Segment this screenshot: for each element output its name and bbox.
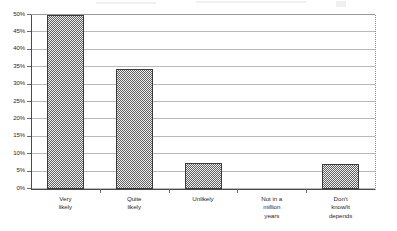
y-axis-tick-label: 30% bbox=[0, 80, 25, 87]
x-axis-label-line: Quite bbox=[100, 195, 169, 203]
y-axis-tick-label: 25% bbox=[0, 98, 25, 105]
x-axis-tick bbox=[237, 189, 238, 193]
scan-artifact bbox=[96, 2, 156, 4]
x-axis-label-line: Not in a bbox=[237, 195, 306, 203]
x-axis-label-line: know/it bbox=[306, 203, 375, 211]
bar bbox=[116, 69, 153, 189]
y-axis-tick-label: 10% bbox=[0, 150, 25, 157]
y-axis-tick-label: 0% bbox=[0, 185, 25, 192]
bar bbox=[322, 164, 359, 189]
y-axis-tick-label: 50% bbox=[0, 11, 25, 18]
y-axis-tick-label: 15% bbox=[0, 132, 25, 139]
x-axis-label-line: years bbox=[237, 212, 306, 220]
y-axis-tick-label: 5% bbox=[0, 167, 25, 174]
x-axis-label-line: Unlikely bbox=[169, 195, 238, 203]
x-axis-label-line: Don't bbox=[306, 195, 375, 203]
y-axis-tick-label: 45% bbox=[0, 28, 25, 35]
x-axis-label-line: Very bbox=[31, 195, 100, 203]
y-axis-tick-label: 20% bbox=[0, 115, 25, 122]
scan-artifact bbox=[336, 1, 346, 7]
x-axis-label-line: depends bbox=[306, 212, 375, 220]
x-axis-tick bbox=[100, 189, 101, 193]
x-axis-line bbox=[31, 189, 376, 190]
bar bbox=[47, 15, 84, 189]
scan-artifact bbox=[196, 1, 306, 3]
y-axis-line bbox=[31, 15, 32, 189]
x-axis-category-label: Quitelikely bbox=[100, 195, 169, 212]
x-axis-label-line: likely bbox=[100, 203, 169, 211]
y-axis-tick-label: 40% bbox=[0, 45, 25, 52]
x-axis-tick bbox=[169, 189, 170, 193]
x-axis-label-line: million bbox=[237, 203, 306, 211]
bar-chart: 0%5%10%15%20%25%30%35%40%45%50% Verylike… bbox=[0, 0, 397, 231]
x-axis-category-label: Don'tknow/itdepends bbox=[306, 195, 375, 220]
x-axis-label-line: likely bbox=[31, 203, 100, 211]
x-axis-tick bbox=[306, 189, 307, 193]
bar bbox=[185, 163, 222, 189]
plot-right-border bbox=[375, 15, 376, 190]
y-axis-tick-label: 35% bbox=[0, 63, 25, 70]
x-axis-category-label: Not in amillionyears bbox=[237, 195, 306, 220]
x-axis-category-label: Unlikely bbox=[169, 195, 238, 203]
x-axis-category-label: Verylikely bbox=[31, 195, 100, 212]
